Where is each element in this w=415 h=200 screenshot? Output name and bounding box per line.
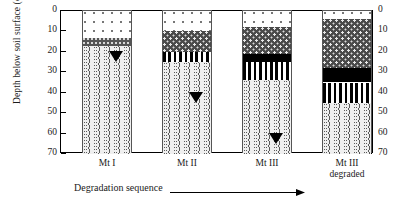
y-tick-label-right-70: 70 [378, 148, 388, 158]
y-tick-label-left-20: 20 [48, 46, 58, 56]
soil-profile-bar [322, 10, 372, 153]
degradation-sequence-label: Degradation sequence [74, 182, 163, 193]
y-axis-right [372, 10, 373, 153]
water-table-marker-icon [109, 51, 123, 62]
soil-horizon-dark-speckle [163, 31, 211, 51]
y-tick-left-50 [61, 112, 66, 113]
soil-horizon-wavy [83, 46, 131, 154]
y-tick-label-left-0: 0 [52, 5, 57, 15]
soil-horizon-dots [83, 11, 131, 38]
y-tick-label-right-50: 50 [378, 107, 388, 117]
soil-horizon-wavy [243, 80, 291, 154]
y-tick-left-20 [61, 51, 66, 52]
y-axis-title: Depth below soil surface (cm) [12, 0, 22, 120]
y-tick-label-left-60: 60 [48, 128, 58, 138]
soil-horizon-dark-speckle [243, 27, 291, 54]
category-label-line2: degraded [299, 169, 395, 180]
y-axis-left [60, 10, 61, 153]
soil-horizon-dots [163, 11, 211, 31]
soil-horizon-wavy [323, 103, 371, 154]
water-table-marker-icon [189, 92, 203, 103]
y-tick-left-60 [61, 133, 66, 134]
y-tick-label-right-60: 60 [378, 128, 388, 138]
y-tick-label-right-0: 0 [378, 5, 383, 15]
soil-horizon-dots [243, 11, 291, 27]
soil-horizon-solid-black [243, 54, 291, 62]
y-tick-label-right-30: 30 [378, 66, 388, 76]
degradation-sequence: Degradation sequence [74, 182, 305, 193]
soil-horizon-wavy [163, 62, 211, 154]
y-tick-label-left-50: 50 [48, 107, 58, 117]
y-tick-label-right-40: 40 [378, 87, 388, 97]
y-tick-left-10 [61, 30, 66, 31]
y-tick-left-40 [61, 92, 66, 93]
soil-horizon-thin-band [83, 38, 131, 46]
soil-horizon-dots [323, 11, 371, 19]
soil-profile-figure: Depth below soil surface (cm) 0010102020… [0, 0, 415, 200]
soil-profile-bar [242, 10, 292, 153]
y-tick-left-70 [61, 153, 66, 154]
soil-horizon-dark-speckle [323, 19, 371, 68]
soil-horizon-vertical-stripes [323, 83, 371, 103]
category-label-4: Mt IIIdegraded [299, 158, 395, 180]
y-tick-label-right-20: 20 [378, 46, 388, 56]
soil-horizon-vertical-stripes [163, 52, 211, 62]
soil-horizon-solid-black [323, 68, 371, 82]
y-tick-left-0 [61, 10, 66, 11]
y-tick-label-left-40: 40 [48, 87, 58, 97]
y-tick-label-left-30: 30 [48, 66, 58, 76]
y-tick-left-30 [61, 71, 66, 72]
y-tick-label-right-10: 10 [378, 25, 388, 35]
soil-profile-bar [82, 10, 132, 153]
y-tick-label-left-70: 70 [48, 148, 58, 158]
soil-profile-bar [162, 10, 212, 153]
soil-horizon-vertical-stripes [243, 62, 291, 80]
y-tick-label-left-10: 10 [48, 25, 58, 35]
water-table-marker-icon [269, 133, 283, 144]
right-arrow-icon [170, 183, 305, 192]
category-label-line1: Mt III [299, 158, 395, 169]
